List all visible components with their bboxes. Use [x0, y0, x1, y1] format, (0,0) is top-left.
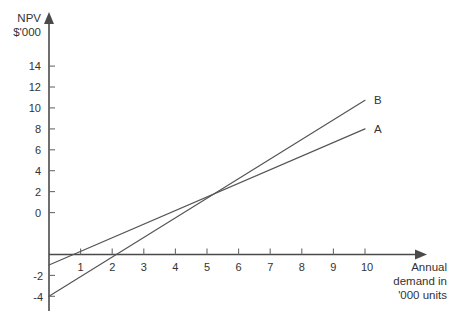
y-tick-label-minus2: -2	[33, 270, 43, 282]
npv-demand-chart: 14 12 10 8 6 4 2 0 -2 -4 1 2	[0, 0, 460, 319]
x-axis	[49, 250, 427, 260]
x-tick-marks	[81, 249, 365, 255]
x-tick-label-9: 9	[330, 261, 336, 273]
y-tick-label-6: 6	[35, 144, 41, 156]
x-axis-arrow-icon	[415, 250, 427, 260]
y-tick-label-14: 14	[29, 60, 41, 72]
series-label-b: B	[374, 94, 382, 106]
x-tick-label-3: 3	[141, 261, 147, 273]
x-tick-label-4: 4	[172, 261, 178, 273]
x-axis-title: Annual demand in '000 units	[393, 261, 447, 301]
y-axis-arrow-icon	[44, 12, 54, 24]
series-line-a	[49, 129, 365, 265]
y-axis-title-line2: $'000	[13, 26, 41, 38]
x-tick-label-1: 1	[78, 261, 84, 273]
x-tick-label-6: 6	[236, 261, 242, 273]
x-tick-label-8: 8	[299, 261, 305, 273]
y-tick-label-10: 10	[29, 102, 41, 114]
y-tick-label-minus4: -4	[33, 291, 43, 303]
y-tick-marks	[49, 66, 55, 296]
y-tick-label-8: 8	[35, 123, 41, 135]
chart-canvas: 14 12 10 8 6 4 2 0 -2 -4 1 2	[0, 0, 460, 319]
x-tick-label-7: 7	[267, 261, 273, 273]
y-axis-title-line1: NPV	[17, 12, 41, 24]
x-tick-label-2: 2	[109, 261, 115, 273]
x-tick-label-10: 10	[361, 261, 373, 273]
y-tick-label-4: 4	[35, 165, 41, 177]
y-tick-labels: 14 12 10 8 6 4 2 0 -2 -4	[29, 60, 43, 303]
y-tick-label-2: 2	[35, 186, 41, 198]
x-tick-label-5: 5	[204, 261, 210, 273]
x-axis-title-line2: demand in	[393, 275, 447, 287]
x-tick-labels: 1 2 3 4 5 6 7 8 9 10	[78, 261, 374, 273]
y-tick-label-0: 0	[35, 207, 41, 219]
y-axis-title: NPV $'000	[13, 12, 41, 38]
x-axis-title-line1: Annual	[411, 261, 447, 273]
y-tick-label-12: 12	[29, 81, 41, 93]
y-axis	[44, 12, 54, 311]
series-label-a: A	[374, 123, 382, 135]
x-axis-title-line3: '000 units	[398, 289, 447, 301]
